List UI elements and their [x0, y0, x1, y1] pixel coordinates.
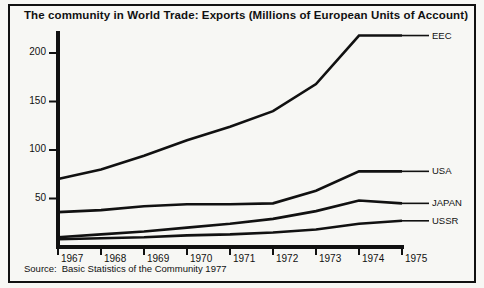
series-label-eec: EEC — [432, 30, 452, 41]
source-note: Source:Basic Statistics of the Community… — [24, 263, 227, 274]
x-tick-label-1971: 1971 — [233, 253, 255, 264]
x-tick-label-1975: 1975 — [405, 253, 427, 264]
y-tick-label-150: 150 — [29, 95, 46, 106]
plot-svg — [0, 0, 484, 288]
y-tick-label-50: 50 — [35, 192, 46, 203]
series-line-japan — [58, 200, 402, 237]
series-line-usa — [58, 171, 402, 212]
y-tick-label-100: 100 — [29, 143, 46, 154]
chart-figure: The community in World Trade: Exports (M… — [0, 0, 484, 288]
x-tick-label-1972: 1972 — [276, 253, 298, 264]
source-label: Source: — [24, 263, 57, 274]
y-tick-label-200: 200 — [29, 46, 46, 57]
plot-area — [0, 0, 484, 288]
series-label-usa: USA — [432, 165, 452, 176]
x-tick-label-1974: 1974 — [362, 253, 384, 264]
series-label-ussr: USSR — [432, 215, 458, 226]
series-line-eec — [58, 36, 402, 180]
source-text: Basic Statistics of the Community 1977 — [62, 263, 227, 274]
series-label-japan: JAPAN — [432, 197, 462, 208]
x-tick-label-1973: 1973 — [319, 253, 341, 264]
